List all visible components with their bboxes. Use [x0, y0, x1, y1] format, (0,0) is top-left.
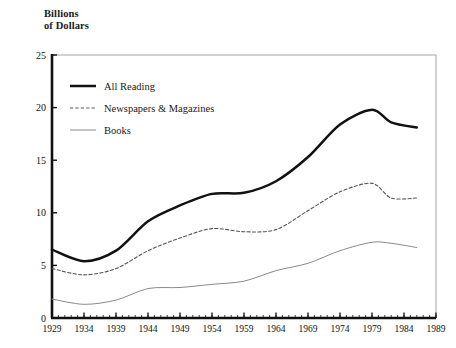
chart-canvas: 0510152025 19291934193919441949195419591…	[0, 0, 456, 348]
x-tick-label: 1934	[75, 324, 94, 334]
y-axis-ticks: 0510152025	[36, 50, 57, 324]
y-tick-label: 20	[36, 102, 46, 113]
x-tick-label: 1944	[139, 324, 158, 334]
reading-expenditures-chart: Billions of Dollars 0510152025 192919341…	[0, 0, 456, 348]
x-tick-label: 1964	[267, 324, 286, 334]
y-tick-label: 15	[36, 155, 46, 166]
chart-legend: All ReadingNewspapers & MagazinesBooks	[70, 81, 214, 136]
series-line-2	[52, 242, 417, 304]
legend-label-1: Newspapers & Magazines	[104, 103, 214, 114]
legend-label-2: Books	[104, 125, 131, 136]
y-tick-label: 25	[36, 50, 46, 61]
series-line-1	[52, 183, 417, 275]
y-tick-label: 0	[41, 313, 46, 324]
x-tick-label: 1954	[203, 324, 222, 334]
x-tick-label: 1969	[299, 324, 318, 334]
x-axis-ticks: 1929193419391944194919541959196419691974…	[43, 313, 446, 335]
data-series-layer	[52, 110, 417, 305]
y-tick-label: 10	[36, 207, 46, 218]
legend-label-0: All Reading	[104, 81, 156, 92]
x-tick-label: 1949	[171, 324, 190, 334]
x-tick-label: 1989	[427, 324, 446, 334]
x-tick-label: 1979	[363, 324, 382, 334]
y-tick-label: 5	[41, 260, 46, 271]
x-tick-label: 1959	[235, 324, 254, 334]
x-tick-label: 1984	[395, 324, 414, 334]
x-tick-label: 1929	[43, 324, 62, 334]
x-tick-label: 1939	[107, 324, 126, 334]
x-tick-label: 1974	[331, 324, 350, 334]
